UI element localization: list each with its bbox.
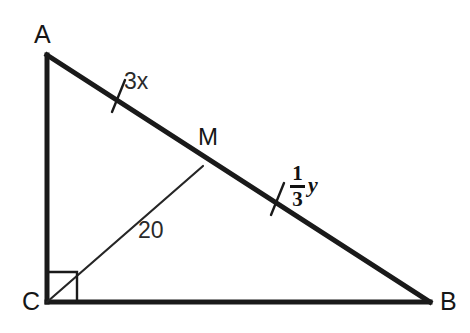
median-cm	[47, 166, 203, 302]
vertex-label-b: B	[440, 289, 457, 314]
median-length-label: 20	[138, 219, 164, 242]
fraction-variable: y	[308, 172, 318, 198]
vertex-label-a: A	[34, 22, 51, 47]
triangle-figure-svg	[0, 0, 470, 333]
segment-mb-label: 1 3 y	[290, 163, 318, 211]
fraction-one-third: 1 3	[290, 163, 305, 211]
geometry-diagram: A B C M 3x 20 1 3 y	[0, 0, 470, 333]
point-label-m: M	[198, 125, 218, 149]
side-ab-hypotenuse	[47, 55, 430, 302]
vertex-label-c: C	[22, 289, 40, 314]
segment-am-label: 3x	[124, 70, 148, 93]
fraction-numerator: 1	[290, 163, 305, 185]
fraction-denominator: 3	[290, 188, 305, 210]
